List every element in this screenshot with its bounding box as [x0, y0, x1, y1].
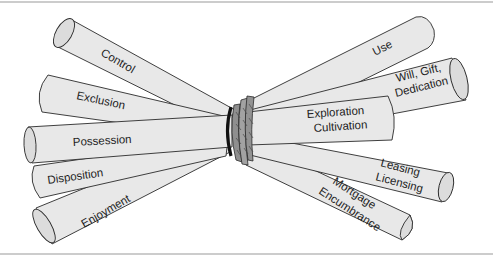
diagram-canvas: Use Will, Gift, Dedication Mortgage Encu…: [0, 0, 493, 257]
bundle-of-sticks-diagram: Use Will, Gift, Dedication Mortgage Encu…: [0, 0, 493, 257]
